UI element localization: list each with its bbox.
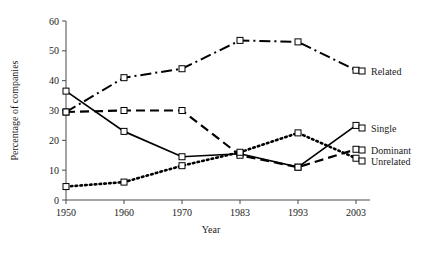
legend-marker-dominant	[359, 147, 365, 153]
y-axis-tick-label: 10	[49, 165, 59, 176]
legend-entry-single: Single	[359, 123, 397, 134]
series-related	[63, 37, 359, 115]
legend-label-related: Related	[371, 66, 402, 77]
data-point-marker	[179, 66, 185, 72]
legend-marker-unrelated	[359, 158, 365, 164]
legend-label-single: Single	[371, 123, 397, 134]
data-point-marker	[295, 164, 301, 170]
data-point-marker	[353, 122, 359, 128]
y-axis-title: Percentage of companies	[9, 60, 20, 160]
data-point-marker	[295, 39, 301, 45]
legend-label-dominant: Dominant	[371, 145, 411, 156]
data-point-marker	[121, 179, 127, 185]
data-point-marker	[63, 88, 69, 94]
data-point-marker	[353, 67, 359, 73]
series-line-unrelated	[66, 133, 356, 187]
x-axis-tick-label: 1993	[288, 207, 308, 218]
y-axis-tick-label: 0	[54, 195, 59, 206]
data-point-marker	[237, 149, 243, 155]
x-axis-tick-label: 1960	[114, 207, 134, 218]
data-point-marker	[237, 37, 243, 43]
legend-entry-related: Related	[359, 66, 402, 77]
legend-marker-related	[359, 68, 365, 74]
x-axis-title: Year	[202, 224, 221, 235]
legend-marker-single	[359, 125, 365, 131]
series-line-single	[66, 91, 356, 167]
data-point-marker	[295, 130, 301, 136]
chart-container: 0102030405060195019601970198319932003Per…	[0, 0, 424, 256]
data-point-marker	[121, 108, 127, 114]
data-point-marker	[179, 154, 185, 160]
series-unrelated	[63, 130, 359, 190]
legend-entry-unrelated: Unrelated	[359, 156, 410, 167]
series-dominant	[63, 108, 359, 171]
data-point-marker	[179, 163, 185, 169]
legend-entry-dominant: Dominant	[359, 145, 411, 156]
y-axis-tick-label: 50	[49, 45, 59, 56]
data-point-marker	[353, 155, 359, 161]
x-axis-tick-label: 1970	[172, 207, 192, 218]
line-chart: 0102030405060195019601970198319932003Per…	[0, 0, 424, 256]
data-point-marker	[353, 146, 359, 152]
data-point-marker	[63, 184, 69, 190]
data-point-marker	[179, 108, 185, 114]
y-axis-tick-label: 40	[49, 75, 59, 86]
x-axis-tick-label: 1950	[56, 207, 76, 218]
y-axis-tick-label: 60	[49, 16, 59, 27]
data-point-marker	[121, 75, 127, 81]
legend-label-unrelated: Unrelated	[371, 156, 410, 167]
data-point-marker	[63, 109, 69, 115]
series-line-related	[66, 40, 356, 112]
x-axis-tick-label: 2003	[346, 207, 366, 218]
x-axis-tick-label: 1983	[230, 207, 250, 218]
y-axis-tick-label: 20	[49, 135, 59, 146]
data-point-marker	[121, 128, 127, 134]
y-axis-tick-label: 30	[49, 105, 59, 116]
